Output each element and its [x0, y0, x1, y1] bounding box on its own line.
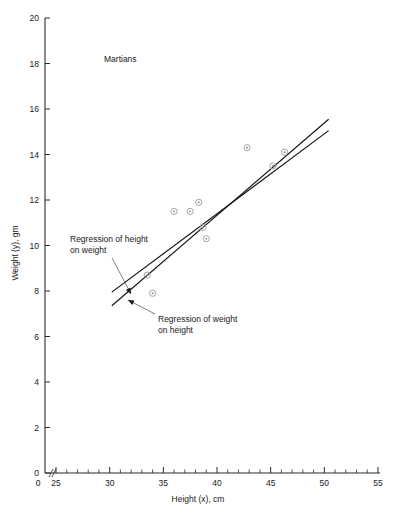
y-tick-label: 14 [30, 150, 40, 160]
martians-scatter-chart: 25303540455055002468101214161820 Regress… [0, 0, 396, 518]
data-point-dot [284, 151, 286, 153]
annot-weight-on-height-line1: Regression of weight [158, 314, 238, 324]
x-tick-label: 30 [105, 478, 115, 488]
data-point-marker [282, 149, 288, 155]
data-point-dot [173, 210, 175, 212]
annot-weight-on-height-line2: on height [158, 325, 194, 335]
annot-height-on-weight-line2: on weight [70, 245, 107, 255]
regression-line-1 [112, 119, 329, 306]
data-point-dot [202, 226, 204, 228]
y-tick-label: 8 [34, 286, 39, 296]
data-points-group [144, 145, 288, 297]
data-point-dot [189, 210, 191, 212]
y-axis-title: Weight (y), gm [10, 225, 20, 280]
annot-height-on-weight-line1: Regression of height [70, 234, 149, 244]
data-point-marker [171, 208, 177, 214]
x-tick-label: 45 [266, 478, 276, 488]
y-tick-label: 16 [30, 104, 40, 114]
x-tick-label: 50 [320, 478, 330, 488]
x-axis-title: Height (x), cm [172, 494, 225, 504]
y-tick-label: 2 [34, 423, 39, 433]
y-tick-label: 10 [30, 241, 40, 251]
data-point-dot [246, 147, 248, 149]
chart-canvas: 25303540455055002468101214161820 Regress… [0, 0, 396, 518]
annot-height-on-weight-leader [112, 258, 131, 294]
data-point-marker [187, 208, 193, 214]
data-point-dot [146, 274, 148, 276]
data-point-dot [272, 165, 274, 167]
data-point-dot [152, 292, 154, 294]
y-tick-label: 20 [30, 13, 40, 23]
data-point-marker [203, 236, 209, 242]
x-tick-label: 55 [373, 478, 383, 488]
plot-title: Martians [104, 54, 137, 64]
data-point-marker [244, 145, 250, 151]
data-point-marker [196, 199, 202, 205]
regression-lines-group [112, 119, 329, 306]
x-tick-label: 40 [212, 478, 222, 488]
annotations-group: Regression of heighton weightRegression … [70, 234, 238, 335]
x-tick-label: 35 [159, 478, 169, 488]
x-axis-zero-label: 0 [36, 478, 41, 488]
x-tick-label: 25 [51, 478, 61, 488]
regression-line-2 [112, 131, 329, 293]
data-point-marker [200, 224, 206, 230]
y-tick-label: 6 [34, 332, 39, 342]
y-tick-label: 4 [34, 377, 39, 387]
y-tick-label: 18 [30, 59, 40, 69]
y-tick-label: 12 [30, 195, 40, 205]
data-point-marker [144, 272, 150, 278]
data-point-dot [198, 201, 200, 203]
data-point-dot [205, 238, 207, 240]
y-tick-label: 0 [34, 468, 39, 478]
data-point-marker [150, 290, 156, 296]
